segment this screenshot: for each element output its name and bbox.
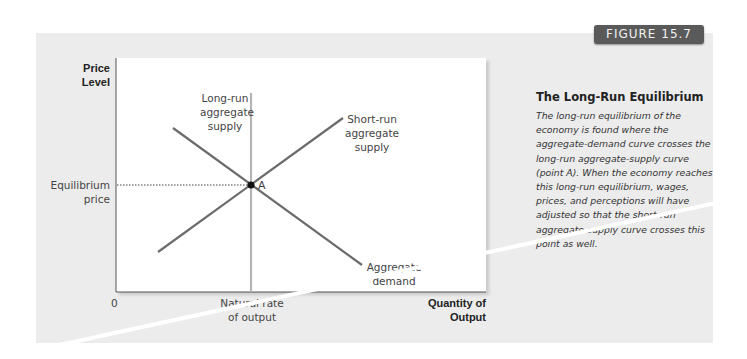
sras-label: Short-run aggregate supply [342, 112, 402, 154]
figure-caption: The Long-Run Equilibrium The long-run eq… [536, 90, 716, 251]
x-axis-label: Quantity of Output [404, 296, 486, 324]
ad-curve [173, 128, 362, 265]
caption-title: The Long-Run Equilibrium [536, 90, 716, 104]
equilibrium-point [247, 181, 254, 188]
origin-label: 0 [111, 296, 118, 310]
caption-body: The long-run equilibrium of the economy … [536, 109, 716, 251]
lras-label: Long-run aggregate supply [200, 91, 250, 133]
y-tick-equilibrium-price: Equilibrium price [40, 178, 110, 206]
y-axis-label: Price Level [70, 61, 110, 89]
point-a-label: A [258, 179, 266, 193]
